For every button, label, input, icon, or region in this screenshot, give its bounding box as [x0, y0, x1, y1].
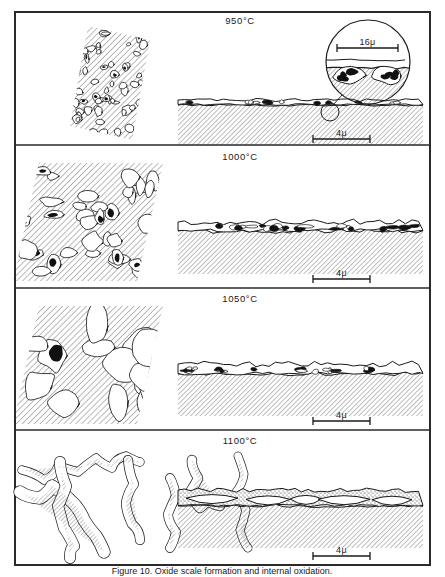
oxide-particle [71, 45, 80, 53]
panel-title-950: 950°C [225, 15, 255, 26]
cross-section-1000 [178, 218, 423, 280]
oxide-particle [138, 123, 142, 131]
oxide-particle [138, 100, 144, 107]
scale-inclusion [262, 100, 272, 104]
scale-inclusion [246, 225, 258, 228]
plan-view-1050 [13, 301, 170, 424]
panel-title-1100: 1100°C [223, 435, 258, 446]
oxide-particle [126, 43, 131, 46]
oxide-particle [76, 117, 80, 122]
scale-inclusion [180, 370, 195, 372]
oxide-particle [96, 119, 105, 125]
oxide-particle [96, 50, 101, 54]
oxide-particle [132, 329, 166, 367]
panel-title-1050: 1050°C [222, 293, 257, 304]
scale-inclusion [364, 366, 369, 370]
figure-canvas: 950°C4μ1000°C4μ1050°C4μ1100°C4μ16μFigure… [0, 0, 445, 577]
inset-scale-bar: 16μ [337, 37, 398, 53]
figure-caption: Figure 10. Oxide scale formation and int… [112, 566, 333, 576]
scale-inclusion [270, 225, 279, 231]
panel-title-1000: 1000°C [222, 151, 257, 162]
plan-view-950 [70, 26, 150, 140]
oxide-particle [108, 61, 114, 67]
oxidation-microstructure-figure: 950°C4μ1000°C4μ1050°C4μ1100°C4μ16μFigure… [0, 0, 445, 577]
oxide-particle-core [75, 61, 81, 63]
oxide-particle [130, 81, 139, 87]
oxide-particle [125, 124, 134, 132]
oxide-particle [14, 216, 31, 226]
scale-inclusion [348, 227, 354, 232]
scale-inclusion [186, 101, 193, 104]
inset-scale-top-line [324, 59, 405, 61]
scale-inclusion [297, 225, 314, 228]
oxide-particle [110, 81, 114, 87]
oxide-particle [80, 48, 88, 54]
oxide-particle [21, 336, 48, 351]
scale-inclusion [385, 226, 399, 229]
oxide-particle [72, 98, 80, 107]
scale-inclusion [408, 224, 420, 227]
scale-inclusion [251, 368, 257, 372]
oxide-particle [138, 214, 159, 233]
oxide-particle [101, 32, 110, 35]
oxide-particle [71, 58, 81, 65]
oxide-particle [76, 66, 80, 75]
oxide-particle [129, 105, 135, 110]
oxide-particle [72, 60, 80, 69]
oxide-particle [122, 109, 126, 115]
cross-section-1100 [178, 486, 423, 554]
oxide-particle [86, 301, 108, 343]
scale-inclusion [314, 101, 321, 105]
oxide-particle [136, 99, 144, 106]
cross-section-950 [178, 96, 423, 152]
inset-scale-bar-label: 16μ [359, 37, 375, 47]
scale-inclusion [296, 369, 307, 372]
cross-section-1050 [178, 360, 423, 422]
oxide-particle [74, 33, 80, 44]
oxide-particle [138, 80, 144, 86]
oxide-particle [74, 88, 83, 95]
plan-view-1000 [13, 163, 163, 281]
